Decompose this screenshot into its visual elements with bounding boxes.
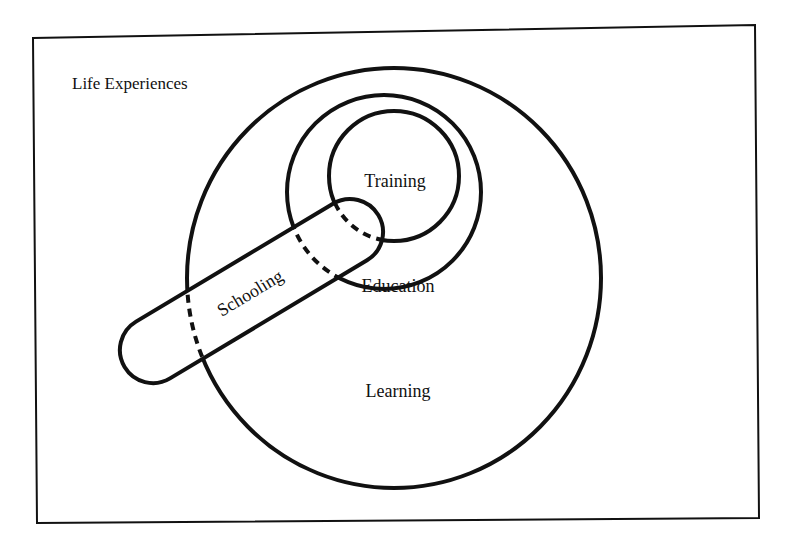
life-experiences-frame xyxy=(33,25,759,523)
life-experiences-label: Life Experiences xyxy=(72,74,188,93)
education-label: Education xyxy=(362,276,435,296)
learning-label: Learning xyxy=(366,381,431,401)
training-label: Training xyxy=(364,171,425,191)
diagram-canvas: Life Experiences Training Education Lear… xyxy=(0,0,788,552)
